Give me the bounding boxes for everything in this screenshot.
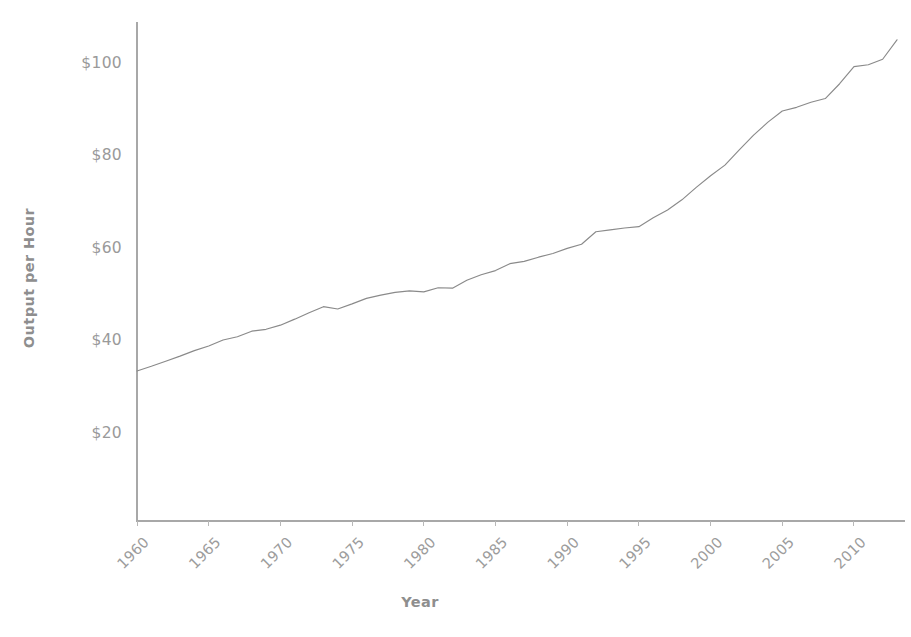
axis-lines bbox=[137, 22, 905, 521]
x-tick-label: 2010 bbox=[831, 534, 869, 572]
x-tick-label: 1970 bbox=[258, 534, 296, 572]
x-tick-label: 1975 bbox=[329, 534, 367, 572]
x-axis-title: Year bbox=[400, 594, 439, 610]
x-tick-label: 1995 bbox=[616, 534, 654, 572]
y-tick-label: $60 bbox=[92, 239, 123, 257]
y-tick-label: $100 bbox=[81, 54, 122, 72]
x-tick-label: 1990 bbox=[544, 534, 582, 572]
x-tick-label: 1980 bbox=[401, 534, 439, 572]
x-axis-ticks bbox=[137, 521, 854, 526]
x-tick-label: 2000 bbox=[688, 534, 726, 572]
x-axis-tick-labels: 1960196519701975198019851990199520002005… bbox=[114, 534, 869, 572]
y-tick-label: $80 bbox=[92, 146, 123, 164]
line-chart: $20$40$60$80$100 19601965197019751980198… bbox=[0, 0, 911, 637]
y-axis-title: Output per Hour bbox=[21, 207, 37, 348]
x-tick-label: 1960 bbox=[114, 534, 152, 572]
x-tick-label: 2005 bbox=[759, 534, 797, 572]
y-tick-label: $20 bbox=[92, 424, 123, 442]
data-series-group bbox=[137, 40, 897, 371]
y-tick-label: $40 bbox=[92, 331, 123, 349]
x-tick-label: 1985 bbox=[473, 534, 511, 572]
x-tick-label: 1965 bbox=[186, 534, 224, 572]
y-axis-tick-labels: $20$40$60$80$100 bbox=[81, 54, 122, 442]
series-line-output-per-hour bbox=[137, 40, 897, 371]
chart-container: $20$40$60$80$100 19601965197019751980198… bbox=[0, 0, 911, 637]
chart-axes bbox=[137, 22, 905, 521]
